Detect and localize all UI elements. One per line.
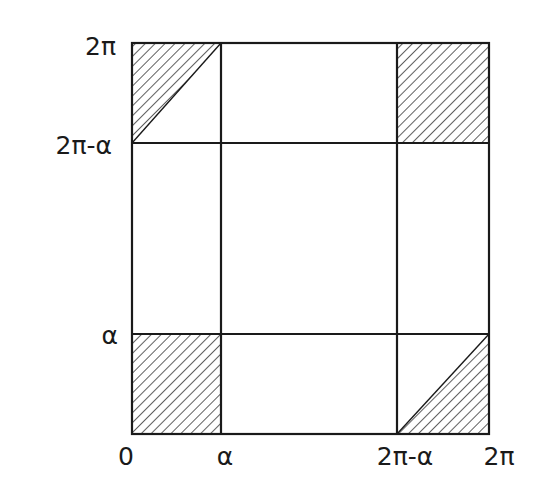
shaded-region-top-right xyxy=(397,43,489,143)
x-label-0: 0 xyxy=(118,442,134,471)
y-label-alpha: α xyxy=(102,321,118,350)
y-label-2pi: 2π xyxy=(85,32,116,61)
x-label-alpha: α xyxy=(217,442,233,471)
partition-diagram: 2π 2π-α α 0 α 2π-α 2π xyxy=(0,0,553,487)
x-label-2pi: 2π xyxy=(484,442,515,471)
x-label-2pi-minus-alpha: 2π-α xyxy=(377,442,433,471)
shaded-region-bottom-left xyxy=(132,334,221,434)
y-label-2pi-minus-alpha: 2π-α xyxy=(56,131,112,160)
